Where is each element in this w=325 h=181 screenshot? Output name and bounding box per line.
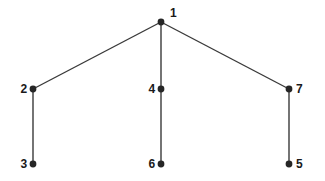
node-label-5: 5 bbox=[296, 158, 302, 170]
node-label-2: 2 bbox=[21, 83, 27, 95]
graph-edge bbox=[33, 22, 161, 89]
graph-node-7[interactable] bbox=[286, 86, 293, 93]
graph-node-3[interactable] bbox=[30, 161, 37, 168]
edges-group bbox=[33, 22, 289, 164]
graph-node-6[interactable] bbox=[158, 161, 165, 168]
node-label-3: 3 bbox=[21, 158, 27, 170]
node-label-6: 6 bbox=[149, 158, 155, 170]
node-label-4: 4 bbox=[149, 83, 155, 95]
graph-canvas bbox=[0, 0, 325, 181]
graph-edge bbox=[161, 22, 289, 89]
graph-node-1[interactable] bbox=[158, 19, 165, 26]
graph-node-2[interactable] bbox=[30, 86, 37, 93]
node-label-1: 1 bbox=[170, 7, 176, 19]
graph-diagram: 1234675 bbox=[0, 0, 325, 181]
node-label-7: 7 bbox=[296, 83, 302, 95]
graph-node-4[interactable] bbox=[158, 86, 165, 93]
graph-node-5[interactable] bbox=[286, 161, 293, 168]
